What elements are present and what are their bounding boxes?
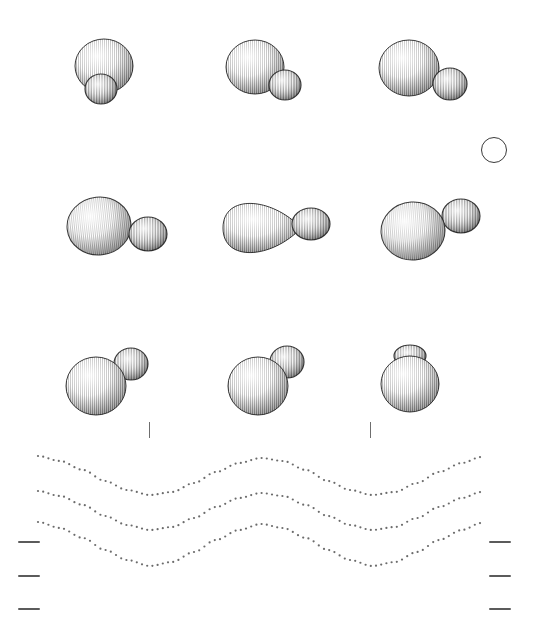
reference-circle-holder	[0, 0, 534, 636]
figure-canvas	[0, 0, 534, 636]
reference-circle[interactable]	[481, 137, 507, 163]
